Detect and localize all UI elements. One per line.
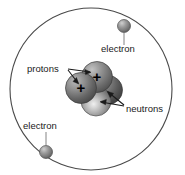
neutrons-label: neutrons	[126, 103, 163, 114]
proton-upper-right-charge: +	[93, 68, 102, 85]
electron-bottom-left	[40, 146, 53, 159]
electron-top-right	[118, 20, 131, 33]
electron-top-label: electron	[101, 43, 135, 54]
electron-bottom-label: electron	[23, 120, 57, 131]
atom-diagram-canvas: + + protons neutrons electron electron	[0, 0, 185, 175]
protons-label: protons	[27, 63, 59, 74]
atom-structure-svg: + + protons neutrons electron electron	[0, 0, 185, 175]
